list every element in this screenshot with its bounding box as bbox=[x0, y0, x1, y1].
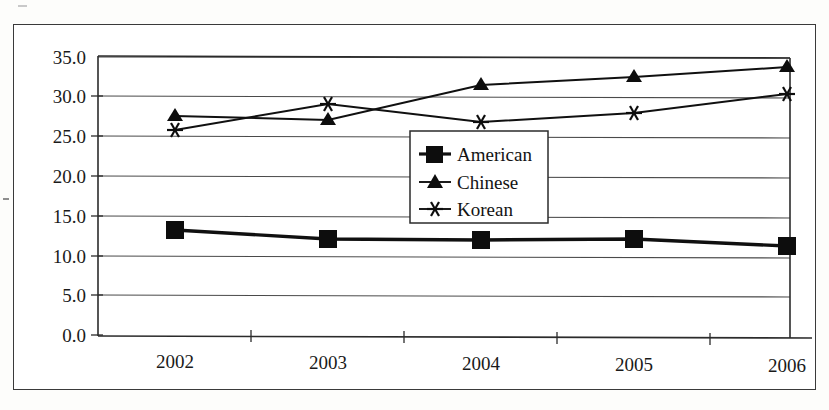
data-point-chinese-2004 bbox=[473, 77, 489, 90]
y-tick-label: 15.0 bbox=[53, 206, 86, 227]
data-point-korean-2005 bbox=[626, 106, 642, 120]
series-chinese-line bbox=[175, 67, 787, 120]
x-tick-label: 2005 bbox=[615, 354, 653, 375]
legend-label-chinese: Chinese bbox=[457, 172, 518, 193]
line-chart: 35.0 30.0 25.0 20.0 15.0 10.0 5.0 0.0 20… bbox=[0, 0, 829, 410]
data-point-american-2005 bbox=[625, 230, 643, 248]
plot-top-edge bbox=[98, 56, 790, 58]
y-tick-label: 10.0 bbox=[53, 246, 86, 267]
series-korean bbox=[167, 87, 795, 137]
x-axis-tick-labels: 2002 2003 2004 2005 2006 bbox=[156, 351, 806, 376]
x-tick-label: 2004 bbox=[462, 353, 501, 374]
y-tick-marks bbox=[91, 96, 103, 335]
legend-marker-square-icon bbox=[426, 146, 443, 163]
x-tick-label: 2006 bbox=[768, 355, 806, 376]
gridline-10 bbox=[98, 256, 790, 258]
x-axis-line bbox=[98, 336, 812, 338]
data-point-korean-2003 bbox=[320, 97, 336, 111]
legend-label-korean: Korean bbox=[457, 199, 513, 220]
series-american bbox=[166, 221, 796, 255]
data-point-american-2002 bbox=[166, 221, 184, 239]
legend-label-american: American bbox=[457, 144, 532, 165]
data-point-american-2003 bbox=[319, 230, 337, 248]
x-tick-label: 2003 bbox=[309, 352, 347, 373]
y-tick-label: 35.0 bbox=[53, 47, 86, 68]
data-point-chinese-2006 bbox=[779, 59, 795, 72]
series-american-markers bbox=[166, 221, 796, 255]
y-tick-label: 5.0 bbox=[62, 285, 86, 306]
data-point-chinese-2002 bbox=[167, 108, 183, 121]
legend-item-american[interactable]: American bbox=[419, 144, 532, 165]
data-point-american-2004 bbox=[472, 231, 490, 249]
chart-legend[interactable]: American Chinese Korean bbox=[410, 131, 548, 223]
data-point-american-2006 bbox=[778, 237, 796, 255]
y-tick-label: 25.0 bbox=[53, 126, 86, 147]
data-point-korean-2006 bbox=[779, 87, 795, 101]
y-tick-label: 20.0 bbox=[53, 166, 86, 187]
y-tick-label: 30.0 bbox=[53, 86, 86, 107]
data-point-korean-2004 bbox=[473, 115, 489, 129]
series-korean-markers bbox=[167, 87, 795, 137]
series-korean-line bbox=[175, 94, 787, 130]
gridline-30 bbox=[98, 96, 790, 98]
data-point-korean-2002 bbox=[167, 123, 183, 137]
x-tick-label: 2002 bbox=[156, 351, 194, 372]
gridline-5 bbox=[98, 295, 790, 297]
y-axis-tick-labels: 35.0 30.0 25.0 20.0 15.0 10.0 5.0 0.0 bbox=[53, 47, 86, 346]
y-tick-label: 0.0 bbox=[62, 325, 86, 346]
data-point-chinese-2005 bbox=[626, 69, 642, 82]
